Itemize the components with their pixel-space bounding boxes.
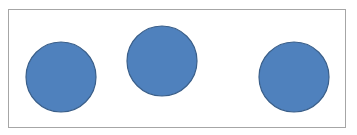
- circle-right: [259, 42, 329, 112]
- diagram-canvas: [0, 0, 357, 135]
- circle-middle: [127, 26, 197, 96]
- circle-left: [26, 42, 96, 112]
